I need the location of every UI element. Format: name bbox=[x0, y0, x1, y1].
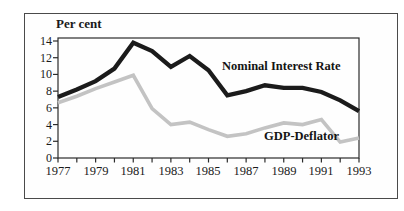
series-label-gdp-deflator: GDP-Deflator bbox=[264, 129, 339, 144]
figure: Per cent 14 12 10 8 6 4 2 0 1977 1979 19… bbox=[0, 0, 404, 211]
y-tick-label: 2 bbox=[22, 134, 52, 148]
x-tick-label: 1981 bbox=[113, 164, 153, 178]
x-tick-label: 1985 bbox=[188, 164, 228, 178]
y-tick-label: 4 bbox=[22, 118, 52, 132]
y-tick-label: 12 bbox=[22, 51, 52, 65]
x-tick-label: 1993 bbox=[339, 164, 379, 178]
x-tick-label: 1991 bbox=[301, 164, 341, 178]
x-tick-label: 1979 bbox=[76, 164, 116, 178]
line-nominal-interest-rate bbox=[58, 43, 359, 112]
y-axis-title: Per cent bbox=[56, 16, 102, 32]
y-tick-label: 14 bbox=[22, 34, 52, 48]
x-tick-label: 1983 bbox=[151, 164, 191, 178]
x-tick-label: 1987 bbox=[226, 164, 266, 178]
y-tick-label: 6 bbox=[22, 101, 52, 115]
y-tick-label: 0 bbox=[22, 151, 52, 165]
x-tick-label: 1989 bbox=[264, 164, 304, 178]
series-label-nominal-interest-rate: Nominal Interest Rate bbox=[222, 59, 341, 74]
y-tick-label: 10 bbox=[22, 67, 52, 81]
y-tick-label: 8 bbox=[22, 84, 52, 98]
x-tick-label: 1977 bbox=[38, 164, 78, 178]
